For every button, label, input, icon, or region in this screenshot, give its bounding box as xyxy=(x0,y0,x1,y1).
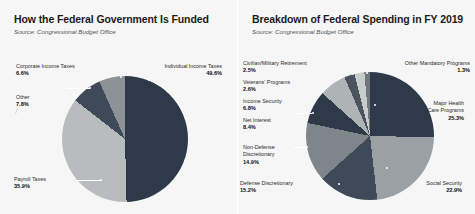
label-text: Individual Income Taxes xyxy=(165,63,222,69)
label-value: 8.4% xyxy=(243,124,271,132)
figure-root: How the Federal Government Is Funded Sou… xyxy=(0,0,475,214)
label-text: Non-Defense Discretionary xyxy=(243,144,275,158)
label-value: 22.9% xyxy=(396,187,462,195)
label-text: Veterans' Programs xyxy=(243,79,290,85)
label-text: Other Mandatory Programs xyxy=(405,60,470,66)
label-text: Defense Discretionary xyxy=(240,180,293,186)
leader-dot xyxy=(386,167,388,169)
leader-line xyxy=(296,113,312,114)
label-text: Civilian/Military Retirement xyxy=(243,60,307,66)
leader-line xyxy=(76,180,101,181)
label-other: Other 7.8% xyxy=(16,86,29,117)
label-text: Income Security xyxy=(243,98,282,104)
leader-dot xyxy=(366,72,368,74)
leader-line xyxy=(293,147,307,148)
chart-source-caption: Source: Congressional Budget Office xyxy=(252,28,354,35)
label-non-defense-discretionary: Non-Defense Discretionary 14.9% xyxy=(243,136,275,175)
label-payroll-taxes: Payroll Taxes 35.9% xyxy=(14,168,46,199)
label-social-security: Social Security 22.9% xyxy=(396,172,462,203)
label-text: Corporate Income Taxes xyxy=(16,63,75,69)
label-individual-income-taxes: Individual Income Taxes 49.6% xyxy=(128,55,222,86)
leader-dot xyxy=(338,183,340,185)
leader-dot xyxy=(352,73,354,75)
label-value: 15.2% xyxy=(240,187,293,195)
label-value: 49.6% xyxy=(128,70,222,78)
label-value: 6.6% xyxy=(16,70,75,78)
leader-dot xyxy=(338,77,340,79)
leader-dot xyxy=(312,112,314,114)
leader-line xyxy=(66,88,90,89)
label-value: 7.8% xyxy=(16,101,29,109)
label-text: Net Interest xyxy=(243,117,271,123)
funding-chart-panel: How the Federal Government Is Funded Sou… xyxy=(0,0,237,214)
label-corporate-income-taxes: Corporate Income Taxes 6.6% xyxy=(16,55,75,86)
label-text: Major Health Care Programs xyxy=(427,100,464,114)
label-text: Other xyxy=(16,94,29,100)
funding-pie-chart xyxy=(62,76,188,202)
page-title: How the Federal Government Is Funded xyxy=(14,13,209,25)
label-value: 25.3% xyxy=(398,115,464,123)
leader-dot xyxy=(120,76,122,78)
page-title: Breakdown of Federal Spending in FY 2019 xyxy=(252,13,463,25)
label-defense-discretionary: Defense Discretionary 15.2% xyxy=(240,172,293,203)
label-text: Payroll Taxes xyxy=(14,176,46,182)
label-value: 14.9% xyxy=(243,159,275,167)
label-major-health-care-programs: Major Health Care Programs 25.3% xyxy=(398,92,464,131)
label-value: 35.9% xyxy=(14,183,46,191)
label-value: 1.3% xyxy=(374,67,470,75)
leader-dot xyxy=(374,104,376,106)
label-text: Social Security xyxy=(426,180,462,186)
label-other-mandatory-programs: Other Mandatory Programs 1.3% xyxy=(374,52,470,83)
chart-source-caption: Source: Congressional Budget Office xyxy=(14,28,116,35)
leader-dot xyxy=(322,90,324,92)
